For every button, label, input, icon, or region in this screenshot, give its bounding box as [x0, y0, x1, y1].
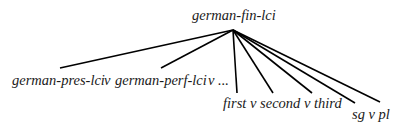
tense-label-perf: german-perf-lci: [115, 73, 207, 88]
edge-third: [233, 30, 312, 93]
tree-diagram: german-fin-lci german-pres-lci v german-…: [0, 0, 401, 126]
root-node-label: german-fin-lci: [192, 8, 276, 23]
edge-sg: [233, 30, 355, 103]
number-label: sg v pl: [352, 107, 390, 122]
edge-first: [233, 30, 237, 93]
person-label: first v second v third: [223, 96, 342, 111]
tense-or-ellipsis: v ...: [208, 73, 229, 88]
tense-label-pres: german-pres-lci: [12, 73, 105, 88]
edge-pres: [60, 30, 233, 68]
tense-or-1: v: [104, 73, 110, 88]
edge-perf: [161, 30, 233, 68]
